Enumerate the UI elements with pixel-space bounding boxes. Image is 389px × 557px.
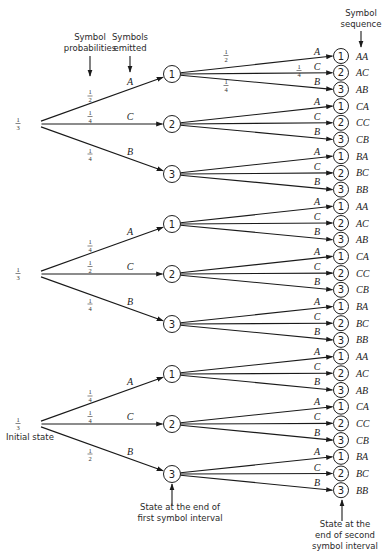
sequence-label: CC — [356, 117, 370, 128]
transition-edge — [41, 77, 163, 121]
transition-edge — [181, 375, 333, 390]
symbol-label: C — [314, 161, 321, 172]
symbol-label: A — [313, 146, 321, 157]
svg-text:2: 2 — [338, 117, 344, 128]
svg-text:1: 1 — [169, 69, 175, 80]
transition-edge — [181, 357, 333, 373]
transition-edge — [181, 256, 333, 272]
svg-text:2: 2 — [169, 419, 175, 430]
symbol-label: C — [314, 211, 321, 222]
sequence-label: AC — [355, 67, 369, 78]
transition-edge — [181, 223, 333, 224]
svg-text:1: 1 — [169, 369, 175, 380]
sequence-label: BA — [356, 301, 369, 312]
sequence-label: BA — [356, 151, 369, 162]
svg-text:1: 1 — [338, 401, 344, 412]
transition-edge — [181, 407, 333, 423]
sequence-label: CC — [356, 268, 370, 279]
svg-text:2: 2 — [338, 468, 344, 479]
symbol-label: B — [314, 126, 320, 137]
transition-edge — [181, 373, 333, 374]
svg-text:probabilities: probabilities — [64, 43, 117, 53]
sequence-label: AB — [355, 385, 368, 396]
symbol-label: B — [314, 226, 320, 237]
svg-text:1: 1 — [338, 51, 344, 62]
symbol-label: C — [127, 111, 134, 122]
symbol-label: C — [314, 462, 321, 473]
annotation-initial-state: Initial state — [6, 432, 54, 442]
sequence-label: BA — [356, 451, 369, 462]
symbol-label: A — [126, 226, 134, 237]
svg-text:2: 2 — [338, 218, 344, 229]
symbol-label: B — [314, 376, 320, 387]
probability-label: 1 — [88, 238, 91, 245]
svg-text:State at the end of: State at the end of — [140, 502, 221, 512]
svg-text:2: 2 — [338, 368, 344, 379]
sequence-label: AA — [355, 201, 369, 212]
symbol-label: A — [126, 76, 134, 87]
symbol-label: C — [127, 411, 134, 422]
symbol-label: B — [127, 146, 133, 157]
sequence-label: AB — [355, 234, 368, 245]
svg-text:3: 3 — [338, 385, 344, 396]
annotation-symbol-sequence: Symbol sequence — [341, 8, 382, 47]
symbol-label: B — [314, 477, 320, 488]
svg-text:2: 2 — [224, 56, 227, 63]
svg-text:Symbol: Symbol — [74, 32, 106, 42]
symbol-label: C — [314, 61, 321, 72]
svg-text:3: 3 — [338, 435, 344, 446]
transition-edge — [181, 56, 333, 73]
svg-text:4: 4 — [297, 71, 301, 78]
annotation-symbol-probabilities: Symbol probabilities — [64, 32, 117, 76]
svg-text:3: 3 — [338, 284, 344, 295]
svg-text:3: 3 — [338, 84, 344, 95]
symbol-label: B — [314, 326, 320, 337]
transition-edge — [181, 156, 333, 173]
transition-edge — [181, 225, 333, 240]
svg-text:1: 1 — [338, 351, 344, 362]
tree: 1312A1A1AAC2ACB3AB14C2A1CAC2CCB3CB14B3A1… — [16, 46, 370, 498]
transition-edge — [41, 377, 163, 421]
transition-edge — [181, 475, 333, 490]
symbol-label: A — [313, 96, 321, 107]
transition-edge — [41, 127, 163, 171]
symbol-label: C — [314, 111, 321, 122]
svg-text:end of second: end of second — [315, 530, 375, 540]
svg-text:4: 4 — [88, 417, 92, 424]
transition-edge — [181, 425, 333, 440]
sequence-label: BC — [356, 167, 369, 178]
svg-text:3: 3 — [338, 485, 344, 496]
svg-text:3: 3 — [169, 319, 175, 330]
probability-label: 1 — [88, 259, 91, 266]
svg-text:3: 3 — [338, 335, 344, 346]
svg-text:2: 2 — [88, 267, 91, 274]
svg-text:emitted: emitted — [113, 43, 146, 53]
svg-text:2: 2 — [338, 168, 344, 179]
probability-label: 1 — [224, 48, 227, 55]
probability-label: 1 — [88, 388, 91, 395]
markov-tree-diagram: Symbol probabilities Symbols emitted Sym… — [0, 0, 389, 557]
symbol-label: C — [314, 411, 321, 422]
transition-edge — [41, 277, 163, 321]
svg-text:State at the: State at the — [320, 519, 370, 529]
sequence-label: BC — [356, 468, 369, 479]
symbol-label: A — [313, 346, 321, 357]
svg-text:4: 4 — [224, 86, 228, 93]
annotation-end-second-interval: State at the end of second symbol interv… — [312, 500, 378, 551]
sequence-label: AA — [355, 51, 369, 62]
sequence-label: CA — [356, 251, 370, 262]
svg-text:1: 1 — [338, 201, 344, 212]
svg-text:1: 1 — [338, 301, 344, 312]
symbol-label: B — [314, 276, 320, 287]
probability-label: 1 — [88, 109, 91, 116]
symbol-label: B — [127, 446, 133, 457]
svg-text:2: 2 — [338, 318, 344, 329]
symbol-label: B — [314, 176, 320, 187]
svg-text:3: 3 — [169, 169, 175, 180]
transition-edge — [181, 106, 333, 123]
svg-text:Initial state: Initial state — [6, 432, 54, 442]
transition-edge — [181, 457, 333, 473]
sequence-label: CA — [356, 401, 370, 412]
probability-label: 1 — [16, 416, 19, 423]
svg-text:1: 1 — [338, 101, 344, 112]
